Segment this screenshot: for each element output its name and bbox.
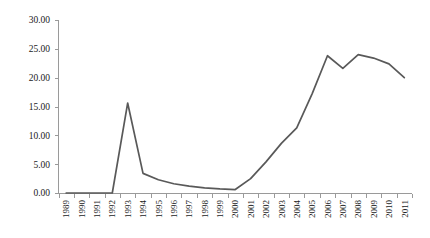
x-axis-tick-label: 2008: [353, 200, 363, 219]
x-axis-tick-label: 1991: [92, 200, 102, 218]
x-axis-tick-label: 1995: [154, 200, 164, 219]
x-axis-tick-label: 2007: [338, 200, 348, 219]
x-axis-tick-label: 1999: [215, 200, 225, 219]
x-axis-tick-label: 2009: [369, 200, 379, 219]
y-axis-tick-marks: [55, 21, 59, 194]
x-axis-tick-label: 2006: [323, 200, 333, 219]
x-axis-tick-label: 1992: [107, 200, 117, 218]
x-axis-tick-label: 1998: [200, 200, 210, 219]
y-axis-tick-labels: 0.005.0010.0015.0020.0025.0030.00: [29, 15, 51, 198]
y-axis-tick-label: 10.00: [29, 131, 51, 141]
line-chart: 0.005.0010.0015.0020.0025.0030.00 198919…: [0, 0, 430, 238]
x-axis-tick-label: 1994: [138, 200, 148, 219]
x-axis-tick-label: 2011: [400, 200, 410, 218]
x-axis-tick-label: 2000: [230, 200, 240, 219]
y-axis-tick-label: 5.00: [33, 160, 50, 170]
y-axis-tick-label: 15.00: [29, 102, 51, 112]
x-axis-tick-label: 1997: [184, 200, 194, 219]
y-axis-tick-label: 0.00: [33, 188, 50, 198]
x-axis-tick-marks: [60, 194, 413, 198]
x-axis-tick-label: 2002: [261, 200, 271, 218]
x-axis-tick-label: 2003: [277, 200, 287, 219]
x-axis-tick-label: 1996: [169, 200, 179, 219]
x-axis-tick-label: 2005: [307, 200, 317, 219]
y-axis-tick-label: 25.00: [29, 44, 51, 54]
data-series-line: [66, 55, 404, 193]
x-axis-tick-label: 2001: [246, 200, 256, 218]
x-axis-tick-labels: 1989199019911992199319941995199619971998…: [61, 200, 409, 219]
x-axis-tick-label: 1993: [123, 200, 133, 219]
x-axis-tick-label: 1990: [77, 200, 87, 219]
x-axis-tick-label: 2004: [292, 200, 302, 219]
x-axis-tick-label: 1989: [61, 200, 71, 219]
x-axis-tick-label: 2010: [384, 200, 394, 219]
y-axis-tick-label: 20.00: [29, 73, 51, 83]
y-axis-tick-label: 30.00: [29, 15, 51, 25]
chart-canvas: 0.005.0010.0015.0020.0025.0030.00 198919…: [0, 0, 430, 238]
